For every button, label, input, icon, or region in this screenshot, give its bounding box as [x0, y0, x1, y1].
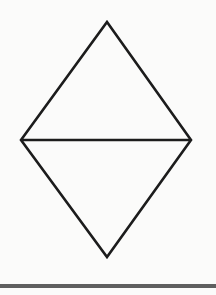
- bottom-rule: [0, 284, 216, 288]
- page-background: [0, 0, 216, 295]
- scanned-page: [0, 0, 216, 295]
- diamond-figure: [0, 0, 216, 295]
